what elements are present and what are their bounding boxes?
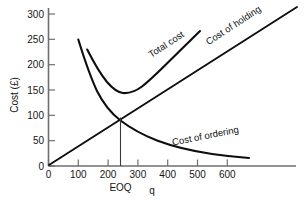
y-tick-label-200: 200	[27, 59, 44, 70]
x-tick-label-100: 100	[70, 169, 87, 180]
y-tick-label-0: 0	[38, 161, 44, 172]
chart-container: 0 50 100 150 200 250 300 0 100 200 300 4…	[0, 0, 304, 203]
y-axis-title: Cost (£)	[9, 77, 20, 113]
x-tick-label-400: 400	[159, 169, 176, 180]
x-tick-label-200: 200	[100, 169, 117, 180]
x-tick-label-300: 300	[130, 169, 147, 180]
eoq-label: EOQ	[109, 182, 131, 193]
y-tick-label-50: 50	[33, 135, 45, 146]
y-tick-label-250: 250	[27, 34, 44, 45]
y-tick-label-100: 100	[27, 110, 44, 121]
cost-vs-quantity-chart: 0 50 100 150 200 250 300 0 100 200 300 4…	[0, 0, 304, 203]
x-tick-label-0: 0	[46, 169, 52, 180]
x-tick-label-500: 500	[189, 169, 206, 180]
y-tick-label-300: 300	[27, 9, 44, 20]
y-tick-label-150: 150	[27, 85, 44, 96]
x-axis-title: q	[149, 185, 155, 196]
x-tick-label-600: 600	[219, 169, 236, 180]
